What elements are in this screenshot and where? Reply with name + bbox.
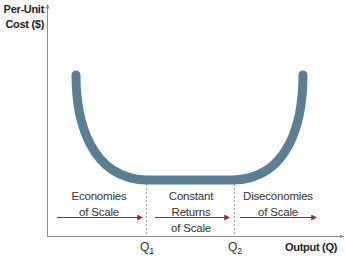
constant-returns-label: Constant Returns of Scale <box>148 188 234 236</box>
diseconomies-line2: of Scale <box>238 204 318 220</box>
diseconomies-of-scale-label: Diseconomies of Scale <box>238 188 318 220</box>
q1-main: Q <box>140 240 149 254</box>
constant-line2: of Scale <box>148 220 234 236</box>
y-axis-label-line1: Per-Unit <box>0 2 44 17</box>
constant-line1: Constant Returns <box>148 188 234 220</box>
q2-main: Q <box>228 240 237 254</box>
economies-line2: of Scale <box>55 204 143 220</box>
q1-tick-label: Q1 <box>140 240 154 256</box>
economies-of-scale-label: Economies of Scale <box>55 188 143 220</box>
q2-sub: 2 <box>237 246 242 256</box>
y-axis-label-line2: Cost ($) <box>0 17 44 32</box>
economies-line1: Economies <box>55 188 143 204</box>
q1-sub: 1 <box>149 246 154 256</box>
average-cost-curve <box>76 75 303 180</box>
diseconomies-line1: Diseconomies <box>238 188 318 204</box>
q2-tick-label: Q2 <box>228 240 242 256</box>
x-axis-label: Output (Q) <box>285 241 337 253</box>
y-axis-label: Per-Unit Cost ($) <box>0 2 44 32</box>
